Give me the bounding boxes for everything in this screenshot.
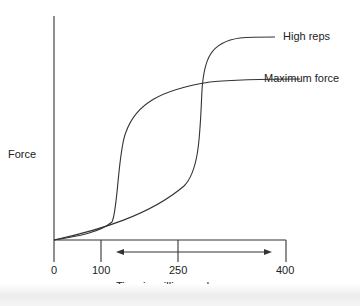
tick-label-0: 0 — [51, 264, 57, 276]
series-label-maximum-force: Maximum force — [264, 72, 339, 84]
series-maximum-force — [54, 79, 300, 240]
arrow-head-left-icon — [116, 249, 124, 255]
series-label-high-reps: High reps — [283, 30, 330, 42]
tick-label-250: 250 — [169, 264, 187, 276]
chart-canvas — [0, 0, 360, 306]
y-axis-label: Force — [8, 148, 36, 160]
arrow-head-right-icon — [264, 249, 272, 255]
tick-label-400: 400 — [276, 264, 294, 276]
tick-label-100: 100 — [92, 264, 110, 276]
page-shadow — [0, 284, 360, 306]
series-high-reps — [54, 37, 275, 240]
